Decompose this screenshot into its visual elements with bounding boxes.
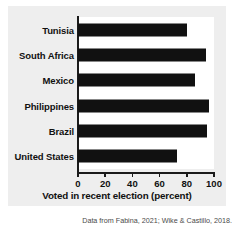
x-tick-1 [104, 173, 106, 177]
x-tick-label-3: 60 [154, 178, 165, 189]
bar-row: South Africa [0, 42, 218, 67]
bar-rows: Tunisia South Africa Mexico Philippines … [0, 17, 218, 169]
category-label-2: Mexico [42, 75, 74, 86]
x-tick-label-4: 80 [182, 178, 193, 189]
bar-row: Philippines [0, 93, 218, 118]
bar-5 [78, 150, 177, 163]
chart-figure: Tunisia South Africa Mexico Philippines … [0, 0, 234, 233]
x-tick-label-5: 100 [206, 178, 222, 189]
bar-4 [78, 124, 207, 137]
x-tick-label-0: 0 [75, 178, 80, 189]
x-axis-line [77, 172, 215, 174]
x-tick-3 [159, 173, 161, 177]
source-note: Data from Fabina, 2021; Wike & Castillo,… [0, 216, 232, 225]
x-tick-label-1: 20 [100, 178, 111, 189]
bar-row: Brazil [0, 118, 218, 143]
bar-row: Tunisia [0, 17, 218, 42]
x-tick-label-2: 40 [127, 178, 138, 189]
bar-3 [78, 99, 209, 112]
bar-0 [78, 23, 187, 36]
bar-row: Mexico [0, 68, 218, 93]
x-tick-2 [132, 173, 134, 177]
x-tick-5 [213, 173, 215, 177]
category-label-4: Brazil [49, 125, 74, 136]
category-label-3: Philippines [24, 100, 74, 111]
x-tick-0 [77, 173, 79, 177]
category-label-5: United States [15, 151, 74, 162]
bar-row: United States [0, 143, 218, 168]
category-label-1: South Africa [19, 49, 74, 60]
x-axis-title: Voted in recent election (percent) [8, 190, 226, 201]
bar-2 [78, 74, 195, 87]
category-label-0: Tunisia [42, 24, 74, 35]
bar-1 [78, 48, 206, 61]
x-tick-4 [186, 173, 188, 177]
